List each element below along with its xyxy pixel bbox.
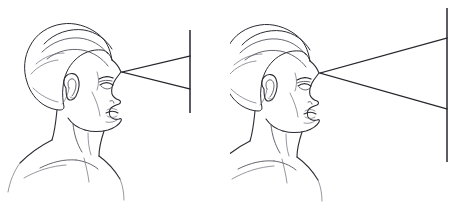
canvas-background	[0, 0, 460, 209]
visual-angle-diagram	[0, 0, 460, 209]
